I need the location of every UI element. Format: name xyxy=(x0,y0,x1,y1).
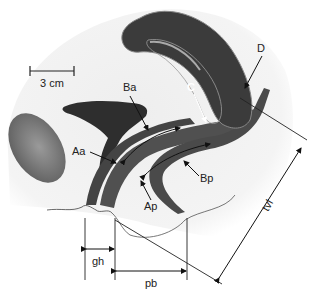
label-d: D xyxy=(257,42,265,54)
pelvic-diagram: 3 cm C D Ba Aa Ap Bp gh pb tvl xyxy=(0,0,309,292)
label-ba: Ba xyxy=(123,81,137,93)
scale-bar-label: 3 cm xyxy=(40,77,64,89)
label-bp: Bp xyxy=(200,172,213,184)
label-c: C xyxy=(187,81,195,93)
label-ap: Ap xyxy=(144,200,157,212)
label-pb: pb xyxy=(145,277,157,289)
label-gh: gh xyxy=(92,255,104,267)
label-aa: Aa xyxy=(72,145,86,157)
